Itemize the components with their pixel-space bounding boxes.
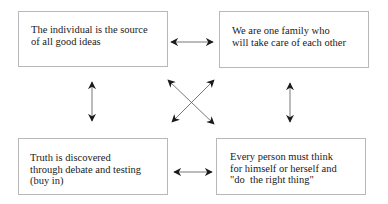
arrows-layer <box>0 0 388 204</box>
double-arrow-diagonal-tr-bl <box>172 80 214 122</box>
